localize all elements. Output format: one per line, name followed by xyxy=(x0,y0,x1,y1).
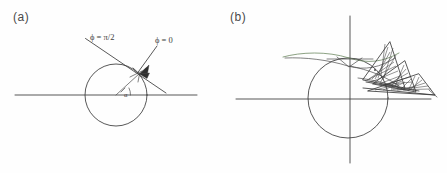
fold-base-line-b2 xyxy=(366,82,419,91)
ray-label-phi-half-pi: ϕ = π/2 xyxy=(90,32,114,42)
angle-arc-a xyxy=(129,88,131,95)
fold-point-marker-b xyxy=(374,69,376,71)
ray-label-phi-zero: ϕ = 0 xyxy=(155,35,173,45)
panel-b: (b) xyxy=(223,0,446,173)
fold-tail-tick-b xyxy=(429,90,437,97)
radius-line-a xyxy=(116,74,140,96)
panel-b-drawing xyxy=(223,0,446,173)
panel-a: (a) ϕ = π/2 xyxy=(0,0,223,173)
figure-root: (a) ϕ = π/2 xyxy=(0,0,447,173)
angle-label-alpha: α xyxy=(124,91,128,98)
normal-tick-a xyxy=(138,74,140,82)
ray-phi-half-pi-line xyxy=(86,39,167,94)
panel-a-drawing: ϕ = π/2 ϕ = 0 α xyxy=(0,0,223,173)
circle-b xyxy=(308,58,388,138)
